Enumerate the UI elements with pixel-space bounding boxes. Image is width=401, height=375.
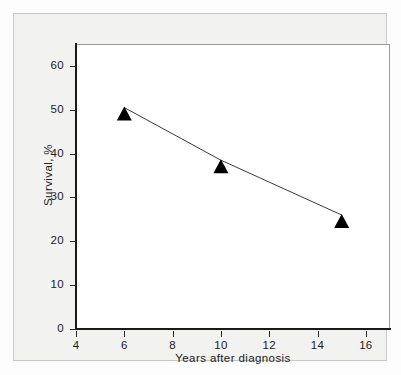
data-point-marker — [334, 214, 349, 228]
y-tick-label: 60 — [30, 59, 64, 71]
x-tick-mark — [124, 331, 125, 337]
y-tick-label: 0 — [30, 322, 64, 334]
x-tick-mark — [269, 331, 270, 337]
y-tick-label: 50 — [30, 103, 64, 115]
data-series-layer — [76, 44, 390, 329]
x-tick-mark — [366, 331, 367, 337]
x-tick-label: 4 — [56, 339, 96, 351]
chart-screenshot: 0102030405060 46810121416 Years after di… — [0, 0, 401, 375]
x-axis-title: Years after diagnosis — [76, 352, 390, 364]
x-tick-label: 6 — [104, 339, 144, 351]
x-tick-mark — [173, 331, 174, 337]
series-line — [124, 108, 341, 215]
y-axis-title: Survival, % — [42, 115, 54, 235]
x-tick-mark — [221, 331, 222, 337]
x-tick-label: 8 — [153, 339, 193, 351]
x-tick-label: 16 — [346, 339, 386, 351]
x-tick-label: 12 — [249, 339, 289, 351]
y-tick-label: 10 — [30, 278, 64, 290]
x-tick-label: 14 — [298, 339, 338, 351]
x-tick-mark — [318, 331, 319, 337]
y-tick-label: 20 — [30, 234, 64, 246]
data-point-marker — [213, 159, 228, 173]
y-tick-mark — [70, 329, 76, 330]
figure-outer-frame: 0102030405060 46810121416 Years after di… — [13, 13, 387, 361]
data-point-marker — [117, 107, 132, 121]
x-tick-mark — [76, 331, 77, 337]
x-tick-label: 10 — [201, 339, 241, 351]
